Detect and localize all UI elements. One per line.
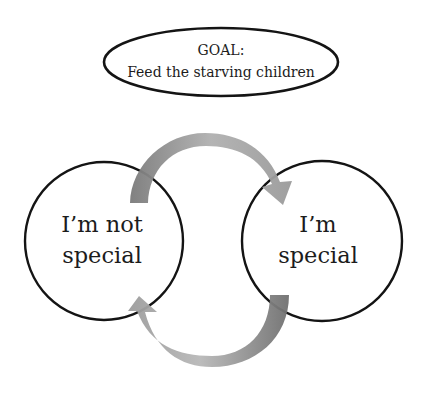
- diagram-svg: GOAL: Feed the starving children I’m not…: [0, 0, 424, 393]
- bottom-cycle-arrow-icon: [128, 295, 289, 367]
- right-circle: [242, 161, 402, 321]
- right-node-label-line1: I’m: [299, 211, 336, 237]
- left-node-label-line1: I’m not: [61, 211, 143, 237]
- goal-ellipse: [104, 28, 338, 96]
- node-im-not-special: [25, 162, 183, 320]
- node-im-special: [242, 161, 402, 321]
- goal-title: GOAL:: [198, 42, 245, 58]
- left-circle: [25, 162, 183, 320]
- left-node-label-line2: special: [62, 242, 142, 268]
- right-node-label-line2: special: [278, 242, 358, 268]
- goal-node: GOAL: Feed the starving children: [104, 28, 338, 96]
- cycle-diagram: GOAL: Feed the starving children I’m not…: [0, 0, 424, 393]
- goal-description: Feed the starving children: [127, 64, 315, 80]
